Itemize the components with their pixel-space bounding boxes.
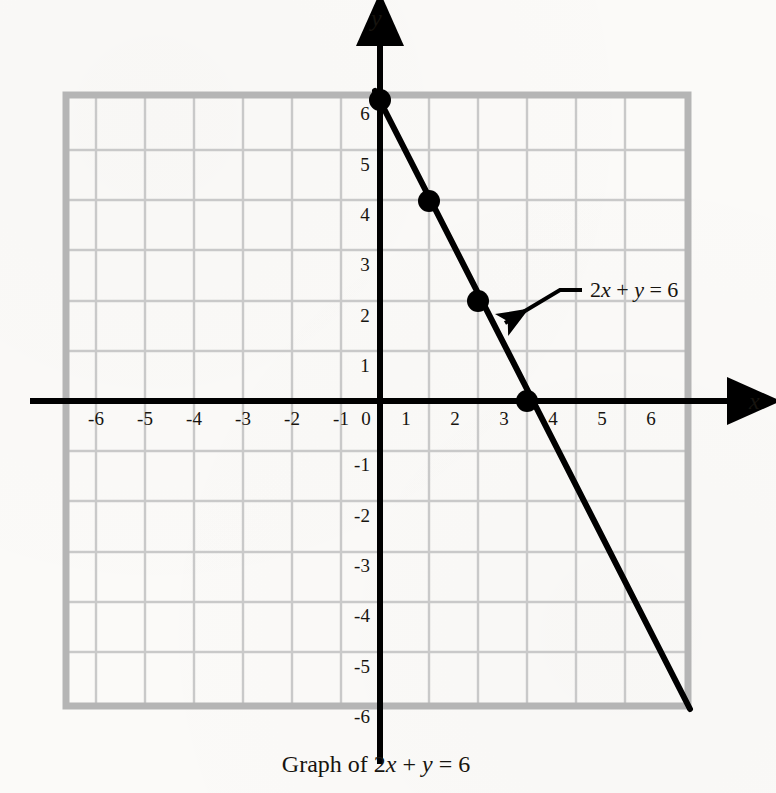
point-0-6 <box>369 89 391 111</box>
point-3-0 <box>516 390 538 412</box>
caption-prefix: Graph of 2 <box>282 751 386 777</box>
x-tick-label--6: -6 <box>88 409 104 428</box>
point-2-2 <box>467 290 489 312</box>
equation-coefficient: 2 <box>590 277 601 302</box>
equation-variable-y: y <box>634 277 644 302</box>
equation-equals-value: = 6 <box>644 277 678 302</box>
y-tick-label-4: 4 <box>360 205 370 224</box>
caption-equals-value: = 6 <box>433 751 471 777</box>
x-tick-label-2: 2 <box>450 409 460 428</box>
x-tick-label--1: -1 <box>333 409 349 428</box>
y-axis-label: y <box>371 6 382 30</box>
x-tick-label--2: -2 <box>284 409 300 428</box>
origin-label: 0 <box>361 409 371 428</box>
coordinate-graph-figure: -6 -5 -4 -3 -2 -1 0 1 2 3 4 5 6 6 5 4 3 … <box>0 0 776 793</box>
y-tick-label-3: 3 <box>360 255 370 274</box>
x-axis-label: x <box>749 389 760 413</box>
x-tick-label-1: 1 <box>401 409 411 428</box>
y-tick-label--5: -5 <box>354 657 370 676</box>
caption-plus: + <box>396 751 422 777</box>
y-tick-label--3: -3 <box>354 556 370 575</box>
x-tick-label--4: -4 <box>186 409 202 428</box>
graph-svg <box>0 0 776 793</box>
equation-annotation: 2x + y = 6 <box>590 279 678 301</box>
y-tick-label-2: 2 <box>360 306 370 325</box>
figure-caption: Graph of 2x + y = 6 <box>282 752 470 776</box>
y-tick-label--1: -1 <box>354 455 370 474</box>
x-tick-label-5: 5 <box>597 409 607 428</box>
x-tick-label-6: 6 <box>646 409 656 428</box>
y-tick-label--4: -4 <box>354 606 370 625</box>
caption-variable-y: y <box>422 751 433 777</box>
caption-variable-x: x <box>386 751 397 777</box>
annotation-leader-line <box>505 290 582 323</box>
equation-plus: + <box>611 277 634 302</box>
x-tick-label-3: 3 <box>499 409 509 428</box>
point-1-4 <box>418 190 440 212</box>
y-tick-label-5: 5 <box>360 155 370 174</box>
x-tick-label-4: 4 <box>548 409 558 428</box>
equation-variable-x: x <box>601 277 611 302</box>
y-tick-label-1: 1 <box>360 356 370 375</box>
y-tick-label--6: -6 <box>354 707 370 726</box>
y-tick-label--2: -2 <box>354 506 370 525</box>
y-tick-label-6: 6 <box>360 104 370 123</box>
x-tick-label--3: -3 <box>235 409 251 428</box>
x-tick-label--5: -5 <box>137 409 153 428</box>
